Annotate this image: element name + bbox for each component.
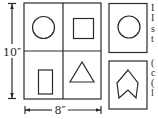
side-panel-top-border <box>109 4 147 53</box>
edge-text-fragment: I <box>151 12 154 23</box>
width-label: 8″ <box>54 104 65 117</box>
arrowhead-right-icon <box>96 108 101 112</box>
arrowhead-left-icon <box>25 108 30 112</box>
edge-text-fragment: t <box>151 33 154 44</box>
side-panel-bottom <box>109 61 147 109</box>
arrowhead-down-icon <box>10 93 14 98</box>
diagram-canvas: 10″ 8″ I I s t ( c ( l <box>0 0 158 119</box>
triangle-shape-icon <box>70 62 94 82</box>
circle-shape-icon <box>33 17 55 39</box>
side-panel-bottom-border <box>109 61 147 109</box>
tall-rectangle-shape-icon <box>39 70 53 94</box>
chevron-arrow-shape-icon <box>117 70 138 98</box>
arrowhead-up-icon <box>10 4 14 9</box>
height-label: 10″ <box>3 46 21 59</box>
square-shape-icon <box>74 19 94 39</box>
side-panel-top <box>109 4 147 53</box>
edge-text-bottom: ( c ( l <box>151 57 156 98</box>
edge-text-top: I I s t <box>151 2 155 44</box>
circle-shape-icon <box>118 16 140 38</box>
main-grid <box>24 3 101 99</box>
edge-text-fragment: l <box>151 87 154 98</box>
